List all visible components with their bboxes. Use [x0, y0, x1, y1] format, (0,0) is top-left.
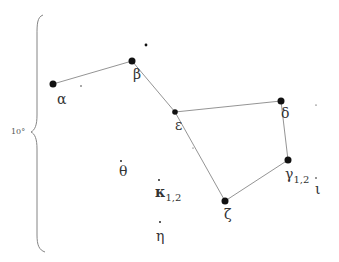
label-theta: θ [119, 164, 127, 178]
label-kappa: κ1,2 [155, 185, 181, 203]
star-gamma [285, 157, 292, 164]
star-alpha [50, 81, 57, 88]
label-gamma: γ1,2 [285, 167, 309, 185]
star-kappa [158, 179, 160, 181]
stars-layer [50, 44, 317, 223]
star-iota [315, 177, 317, 179]
constellation-lines [53, 61, 288, 201]
star-minor-2 [315, 104, 316, 105]
label-beta: β [133, 67, 141, 81]
line-zeta-epsilon [175, 112, 225, 201]
scale-label: 10° [11, 127, 25, 136]
star-minor-3 [193, 148, 194, 149]
scale-brace [31, 15, 45, 252]
star-epsilon [172, 109, 178, 115]
star-minor-1 [80, 85, 81, 86]
label-iota: ι [315, 182, 321, 196]
label-eta: η [156, 229, 164, 243]
star-eta [159, 221, 161, 223]
line-gamma-zeta [225, 160, 288, 201]
label-alpha: α [57, 92, 66, 106]
star-delta [278, 98, 285, 105]
label-zeta: ζ [224, 207, 232, 221]
star-zeta [222, 198, 229, 205]
star-beta [129, 58, 136, 65]
label-delta: δ [281, 106, 289, 120]
line-epsilon-delta [175, 101, 281, 112]
star-minor-0 [145, 44, 148, 47]
line-alpha-beta [53, 61, 132, 84]
label-epsilon: ε [175, 118, 182, 132]
star-theta [120, 160, 122, 162]
constellation-chart [0, 0, 339, 262]
